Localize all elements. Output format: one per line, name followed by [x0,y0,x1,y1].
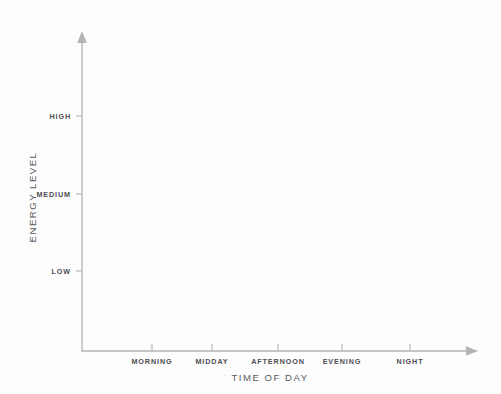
y-axis-arrowhead-icon [77,31,87,43]
x-tick-label-night: NIGHT [397,357,424,366]
x-axis-title: TIME OF DAY [231,372,308,383]
axes-drawing [0,0,501,394]
y-tick-label-high: HIGH [49,112,71,121]
x-tick-label-midday: MIDDAY [195,357,228,366]
x-tick-label-evening: EVENING [323,357,362,366]
y-tick-label-low: LOW [52,267,71,276]
y-tick-label-medium: MEDIUM [36,190,71,199]
chart-canvas: MORNING MIDDAY AFTERNOON EVENING NIGHT H… [0,0,501,394]
x-axis-arrowhead-icon [466,346,478,356]
x-tick-label-afternoon: AFTERNOON [251,357,305,366]
x-tick-label-morning: MORNING [131,357,172,366]
y-axis-title: ENERGY LEVEL [27,152,38,243]
